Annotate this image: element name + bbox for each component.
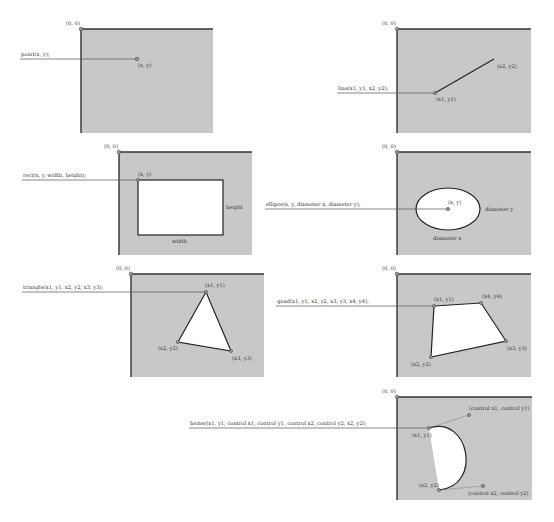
rect-shape [138,180,223,235]
anchor-2-label: (x2, y2) [419,482,439,489]
point-1-marker [433,91,436,94]
control-1-label: (control x1, control y1) [469,405,530,412]
point-2-label: (x2, y2) [497,63,517,70]
vertex-2-marker [176,340,179,343]
function-call-label: bezier(x1, y1, control x1, control y1, c… [190,420,367,427]
vertex-3-label: (x3, y3) [232,355,252,362]
line-panel: (0, 0) line(x1, y1, x2, y2); (x1, y1) (x… [337,20,531,133]
anchor-2-marker [437,488,440,491]
ellipse-panel: (0, 0) ellipse(x, y, diameter x, diamete… [265,143,531,255]
diameter-y-label: diameter y [485,206,513,213]
point-marker [135,57,139,61]
vertex-4-label: (x4, y4) [482,293,502,300]
width-label: width [172,238,188,244]
canvas-area [81,29,213,133]
point-1-label: (x1, y1) [436,96,456,103]
control-2-label: (control x2, control y2) [468,490,529,497]
function-call-label: rect(x, y, width, height); [23,172,86,179]
vertex-2-label: (x2, y2) [158,345,178,352]
origin-label: (0, 0) [382,388,396,394]
triangle-panel: (0, 0) triangle(x1, y1, x2, y2, x3, y3);… [22,265,264,377]
height-label: height [226,204,244,211]
anchor-1-label: (x1, y1) [412,432,432,439]
origin-point [129,272,133,276]
function-call-label: quad(x1, y1, x2, y2, x3, y3, x4, y4); [277,298,369,305]
vertex-1-label: (x1, y1) [434,296,454,303]
vertex-4-marker [479,301,482,304]
origin-label: (0, 0) [382,265,396,271]
vertex-3-marker [229,349,232,352]
function-call-label: ellipse(x, y, diameter x, diameter y); [266,201,361,208]
center-point-label: (x, y) [448,199,461,206]
function-call-label: line(x1, y1, x2, y2); [338,85,389,92]
origin-label: (0, 0) [382,143,396,149]
vertex-3-marker [504,339,507,342]
corner-point-label: (x, y) [138,171,151,178]
diameter-x-label: diameter x [433,235,461,241]
control-2-marker [481,484,484,487]
origin-label: (0, 0) [382,20,396,26]
origin-label: (0, 0) [66,20,80,26]
origin-point [395,272,399,276]
corner-point-marker [136,178,139,181]
control-1-marker [467,413,470,416]
function-call-label: point(x, y); [21,51,50,58]
origin-label: (0, 0) [104,143,118,149]
origin-point [117,150,121,154]
vertex-3-label: (x3, y3) [507,345,527,352]
origin-point [395,150,399,154]
anchor-1-marker [427,426,430,429]
origin-label: (0, 0) [116,265,130,271]
center-point-marker [446,207,449,210]
vertex-1-marker [432,304,435,307]
point-label: (x, y) [138,62,151,69]
origin-point [395,27,399,31]
quad-panel: (0, 0) quad(x1, y1, x2, y2, x3, y3, x4, … [276,265,531,377]
bezier-panel: (0, 0) bezier(x1, y1, control x1, contro… [189,388,532,500]
function-call-label: triangle(x1, y1, x2, y2, x3, y3); [23,284,104,291]
point-panel: (0, 0) point(x, y); (x, y) [20,20,213,133]
vertex-1-label: (x1, y1) [205,282,225,289]
vertex-2-label: (x2, y2) [411,361,431,368]
canvas-area [397,29,531,133]
vertex-1-marker [204,290,207,293]
origin-point [395,395,399,399]
vertex-2-marker [429,355,432,358]
primitives-diagram: (0, 0) point(x, y); (x, y) (0, 0) line(x… [0,0,554,522]
rect-panel: (0, 0) rect(x, y, width, height); (x, y)… [22,143,252,255]
origin-point [79,27,83,31]
